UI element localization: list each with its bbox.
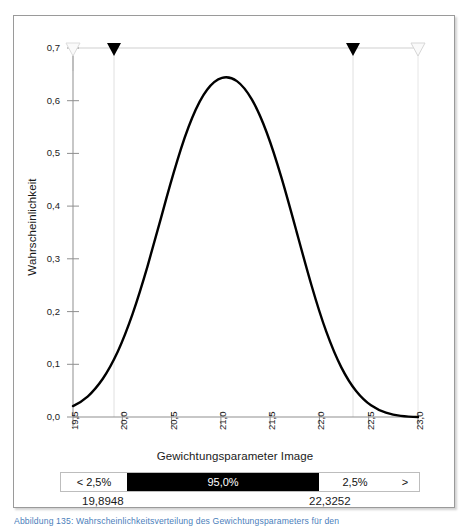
x-tick-label-4: 21,5 bbox=[266, 412, 277, 431]
upper-bound-value: 22,3252 bbox=[309, 495, 351, 507]
slider-center-band[interactable]: 95,0% bbox=[127, 473, 319, 491]
x-tick-label-6: 22,5 bbox=[365, 412, 376, 431]
upper-bound-marker[interactable] bbox=[346, 43, 360, 56]
x-tick-label-0: 19,5 bbox=[69, 412, 80, 431]
x-tick-label-7: 23,0 bbox=[414, 412, 425, 431]
x-tick-label-5: 22,0 bbox=[315, 412, 326, 431]
lower-bound-marker[interactable] bbox=[107, 43, 121, 56]
x-axis-title: Gewichtungsparameter Image bbox=[14, 450, 456, 462]
y-tick-label-0: 0,7 bbox=[28, 42, 60, 53]
chart-card: 0,7 0,6 0,5 0,4 0,3 0,2 0,1 0,0 Wahrsche… bbox=[13, 15, 455, 508]
slider-overflow-label[interactable]: > bbox=[391, 473, 419, 491]
density-curve bbox=[73, 77, 418, 417]
axis-start-marker[interactable] bbox=[66, 43, 80, 56]
figure-page: 0,7 0,6 0,5 0,4 0,3 0,2 0,1 0,0 Wahrsche… bbox=[0, 0, 468, 526]
plot-area: 0,7 0,6 0,5 0,4 0,3 0,2 0,1 0,0 Wahrsche… bbox=[14, 16, 456, 509]
y-axis-title: Wahrscheinlichkeit bbox=[26, 57, 38, 397]
x-tick-label-3: 21,0 bbox=[217, 412, 228, 431]
x-tick-label-2: 20,5 bbox=[168, 412, 179, 431]
slider-right-tail-label[interactable]: 2,5% bbox=[319, 473, 391, 491]
distribution-plot-svg bbox=[14, 16, 456, 456]
figure-caption: Abbildung 135: Wahrscheinlichkeitsvertei… bbox=[14, 516, 460, 526]
confidence-interval-slider[interactable]: < 2,5% 95,0% 2,5% > bbox=[60, 472, 420, 492]
x-tick-label-1: 20,0 bbox=[118, 412, 129, 431]
slider-left-tail-label[interactable]: < 2,5% bbox=[61, 473, 127, 491]
y-tick-label-7: 0,0 bbox=[28, 411, 60, 422]
axis-end-marker[interactable] bbox=[411, 43, 425, 56]
lower-bound-value: 19,8948 bbox=[82, 495, 124, 507]
